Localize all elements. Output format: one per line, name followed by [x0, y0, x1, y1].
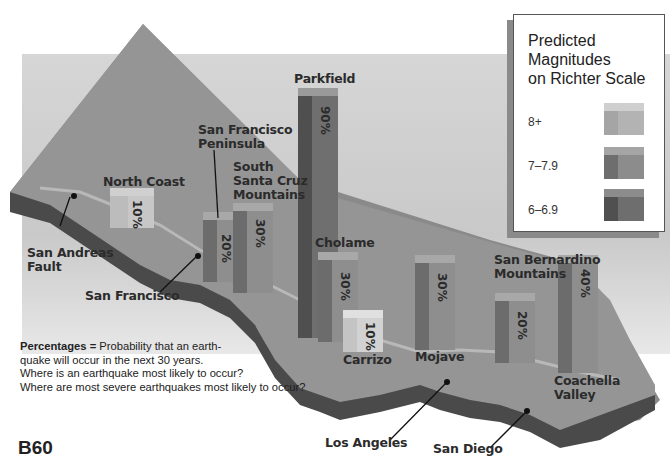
label-san-francisco: San Francisco — [85, 289, 179, 303]
bar-south-santa-cruz: 30% — [233, 203, 273, 293]
percent-cholame: 30% — [338, 272, 352, 301]
label-cholame: Cholame — [315, 236, 374, 250]
legend-cube-8plus — [604, 103, 644, 135]
label-los-angeles: Los Angeles — [325, 436, 407, 450]
san-francisco-marker — [195, 253, 201, 259]
label-north-coast: North Coast — [103, 175, 185, 189]
note-line2: quake will occur in the next 30 years. — [20, 354, 203, 366]
percent-carrizo: 10% — [363, 322, 377, 351]
label-coachella: Coachella Valley — [554, 374, 620, 402]
label-san-bernardino: San Bernardino Mountains — [494, 253, 600, 281]
legend-cube-6 — [604, 189, 644, 221]
legend-item-6: 6–6.9 — [528, 203, 558, 217]
bar-north-coast: 10% — [110, 188, 154, 228]
label-san-andreas-fault: San Andreas Fault — [27, 246, 114, 274]
page-number: B60 — [18, 437, 53, 459]
label-mojave: Mojave — [415, 350, 464, 364]
bar-carrizo: 10% — [343, 310, 383, 352]
legend-item-8plus: 8+ — [528, 115, 542, 129]
label-south-santa-cruz: South Santa Cruz Mountains — [233, 160, 308, 202]
percent-parkfield: 90% — [318, 106, 332, 135]
percent-san-bernardino: 20% — [515, 311, 529, 340]
note-line1: Probability that an earth- — [96, 340, 221, 352]
percent-north-coast: 10% — [130, 200, 144, 229]
bar-mojave: 30% — [415, 255, 455, 350]
label-san-diego: San Diego — [433, 442, 503, 456]
legend-cube-7 — [604, 147, 644, 179]
bar-sf-peninsula: 20% — [203, 212, 237, 282]
bar-san-bernardino: 20% — [495, 293, 535, 363]
label-carrizo: Carrizo — [343, 353, 392, 367]
legend: Predicted Magnitudes on Richter Scale 8+… — [513, 14, 665, 232]
percentages-note: Percentages = Probability that an earth-… — [20, 340, 340, 394]
note-line4: Where are most severe earthquakes most l… — [20, 381, 305, 393]
label-parkfield: Parkfield — [294, 72, 355, 86]
san-diego-marker — [524, 408, 530, 414]
legend-item-7: 7–7.9 — [528, 159, 558, 173]
label-sf-peninsula: San Francisco Peninsula — [198, 123, 292, 151]
percent-mojave: 30% — [435, 273, 449, 302]
percent-south-santa-cruz: 30% — [253, 219, 267, 248]
note-line3: Where is an earthquake most likely to oc… — [20, 367, 243, 379]
los-angeles-marker — [444, 379, 450, 385]
legend-title: Predicted Magnitudes on Richter Scale — [528, 31, 645, 88]
fault-marker — [71, 193, 77, 199]
note-bold: Percentages = — [20, 340, 96, 352]
percent-sf-peninsula: 20% — [219, 234, 233, 263]
